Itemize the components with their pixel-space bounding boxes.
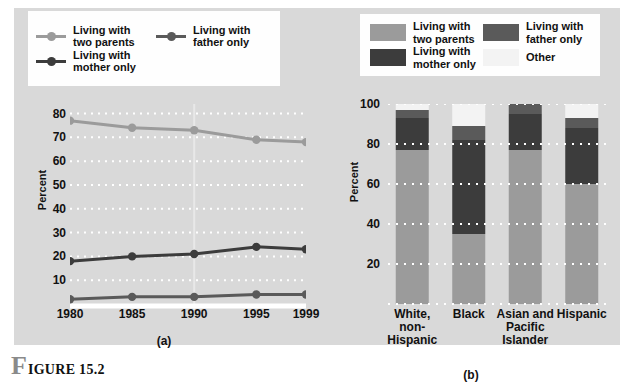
chart-b-y-axis-ticks: 10080604020 — [340, 96, 380, 306]
legend-a-label: Living with father only — [193, 24, 250, 49]
chart-b-bar-segment — [396, 110, 429, 118]
color-swatch — [483, 24, 519, 41]
chart-b-bar-segment — [452, 140, 485, 234]
legend-b-item: Living with two parents — [370, 20, 483, 45]
legend-a-item: Living with two parents — [36, 24, 156, 49]
color-swatch — [370, 24, 406, 41]
chart-a-x-axis-ticks: 19801985199019951999 — [70, 308, 306, 328]
chart-b-bar-segment — [509, 104, 542, 114]
chart-b-stacked-bar — [396, 104, 429, 304]
chart-a-data-point — [128, 124, 136, 132]
legend-line-chart: Living with two parentsLiving with fathe… — [28, 11, 280, 86]
chart-a-data-point — [128, 293, 136, 301]
chart-b-y-tick: 20 — [367, 258, 380, 270]
chart-a-y-tick: 10 — [53, 274, 66, 286]
chart-a-x-tick: 1990 — [181, 308, 208, 321]
chart-b-bar-segment — [452, 126, 485, 140]
legend-b-item: Living with mother only — [370, 45, 483, 70]
chart-a-series-line — [70, 121, 306, 142]
chart-a-data-point — [70, 116, 74, 124]
figure-caption-text: IGURE 15.2 — [28, 362, 105, 378]
chart-a-data-point — [70, 257, 74, 265]
chart-b-bar-segment — [565, 118, 598, 128]
chart-a-data-point — [252, 290, 260, 298]
chart-b-stacked-bar — [452, 104, 485, 304]
chart-b-bar-segment — [565, 184, 598, 304]
chart-a-data-point — [302, 290, 306, 298]
chart-a-series-line — [70, 247, 306, 261]
chart-a-y-tick: 40 — [53, 203, 66, 215]
chart-a-data-point — [252, 243, 260, 251]
legend-bar-chart: Living with two parentsLiving with fathe… — [360, 14, 600, 76]
chart-b-y-tick: 60 — [367, 178, 380, 190]
chart-a-x-tick: 1985 — [119, 308, 146, 321]
chart-a-data-point — [70, 295, 74, 303]
figure-caption: F IGURE 15.2 — [11, 355, 105, 378]
chart-b-y-tick: 80 — [367, 138, 380, 150]
chart-b-sublabel: (b) — [322, 368, 620, 382]
chart-b-bar-segment — [452, 234, 485, 304]
chart-b-bar-segment — [565, 128, 598, 184]
legend-b-item: Living with father only — [483, 20, 596, 45]
chart-b-x-axis-ticks: White, non-HispanicBlackAsian and Pacifi… — [384, 308, 610, 356]
chart-a-y-tick: 20 — [53, 250, 66, 262]
chart-b-bar-segment — [396, 150, 429, 304]
chart-a-y-axis-ticks: 8070605040302010 — [36, 96, 66, 306]
chart-a-svg — [70, 104, 306, 310]
chart-b-x-tick: Hispanic — [545, 308, 620, 321]
chart-a-series-line — [70, 294, 306, 299]
chart-a-y-tick: 70 — [53, 131, 66, 143]
chart-a-y-tick: 50 — [53, 179, 66, 191]
chart-a-x-tick: 1980 — [57, 308, 84, 321]
chart-a-data-point — [302, 138, 306, 146]
line-chart-family-living-arrangements: Percent 8070605040302010 198019851990199… — [14, 96, 314, 345]
chart-b-y-tick: 100 — [360, 98, 380, 110]
chart-b-stacked-bar — [565, 104, 598, 304]
chart-a-y-tick: 30 — [53, 227, 66, 239]
chart-b-bar-segment — [565, 104, 598, 118]
chart-a-data-point — [252, 136, 260, 144]
chart-a-y-tick: 80 — [53, 108, 66, 120]
figure-caption-initial: F — [11, 355, 27, 377]
chart-a-y-tick: 60 — [53, 155, 66, 167]
chart-a-data-point — [190, 126, 198, 134]
chart-a-x-tick: 1999 — [293, 308, 320, 321]
chart-a-sublabel: (a) — [14, 334, 314, 348]
chart-b-y-tick: 40 — [367, 218, 380, 230]
legend-a-item: Living with mother only — [36, 49, 156, 74]
line-dot-marker — [36, 30, 66, 42]
legend-b-label: Living with two parents — [413, 20, 475, 45]
chart-a-data-point — [190, 250, 198, 258]
legend-a-item: Living with father only — [156, 24, 276, 49]
chart-a-data-point — [190, 293, 198, 301]
chart-b-bar-segment — [452, 104, 485, 126]
chart-a-plot-area — [70, 104, 306, 304]
chart-a-data-point — [128, 252, 136, 260]
legend-a-label: Living with two parents — [73, 24, 135, 49]
line-dot-marker — [156, 30, 186, 42]
chart-b-bar-segment — [396, 118, 429, 150]
color-swatch — [370, 49, 406, 66]
chart-a-data-point — [302, 245, 306, 253]
legend-b-label: Living with mother only — [413, 45, 476, 70]
legend-b-item: Other — [483, 45, 596, 70]
color-swatch — [483, 49, 519, 66]
figure-container: Living with two parentsLiving with fathe… — [0, 0, 634, 392]
legend-b-label: Other — [526, 51, 555, 64]
legend-a-label: Living with mother only — [73, 49, 136, 74]
stacked-bar-chart-living-arrangements-by-race: Percent 10080604020 White, non-HispanicB… — [322, 96, 620, 345]
chart-b-svg — [384, 104, 610, 310]
line-dot-marker — [36, 55, 66, 67]
chart-b-bar-segment — [509, 150, 542, 304]
chart-b-stacked-bar — [509, 104, 542, 304]
chart-b-plot-area — [384, 104, 610, 304]
chart-a-x-tick: 1995 — [243, 308, 270, 321]
legend-b-label: Living with father only — [526, 20, 583, 45]
